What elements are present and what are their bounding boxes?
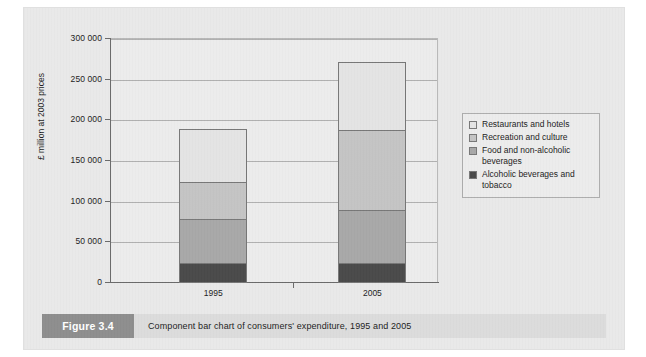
y-axis-title: £ million at 2003 prices bbox=[36, 73, 46, 160]
y-tick-mark bbox=[105, 119, 110, 120]
bar-segment bbox=[179, 219, 247, 264]
bar-1995 bbox=[179, 125, 247, 282]
legend-item: Alcoholic beverages and tobacco bbox=[469, 169, 593, 191]
legend-swatch-icon bbox=[469, 134, 477, 142]
y-tick-group: 50 000 bbox=[110, 241, 111, 242]
x-tick-label: 1995 bbox=[204, 288, 223, 298]
y-tick-mark bbox=[105, 38, 110, 39]
bar-2005 bbox=[338, 58, 406, 282]
legend-label: Restaurants and hotels bbox=[482, 119, 569, 130]
chart-legend: Restaurants and hotelsRecreation and cul… bbox=[462, 113, 600, 198]
y-tick-group: 150 000 bbox=[110, 160, 111, 161]
figure-number: Figure 3.4 bbox=[42, 314, 134, 338]
legend-swatch-icon bbox=[469, 147, 477, 155]
y-tick-mark bbox=[105, 201, 110, 202]
bar-segment bbox=[179, 129, 247, 183]
y-tick-group: 250 000 bbox=[110, 79, 111, 80]
x-tick-label: 2005 bbox=[363, 288, 382, 298]
y-tick-label: 250 000 bbox=[71, 74, 102, 84]
bar-segment bbox=[338, 130, 406, 211]
figure-caption-text: Component bar chart of consumers' expend… bbox=[148, 321, 411, 331]
legend-label: Food and non-alcoholic beverages bbox=[482, 145, 593, 167]
legend-label: Alcoholic beverages and tobacco bbox=[482, 169, 593, 191]
figure-caption: Figure 3.4 Component bar chart of consum… bbox=[42, 314, 606, 338]
y-tick-mark bbox=[105, 282, 110, 283]
y-tick-mark bbox=[105, 79, 110, 80]
y-tick-label: 200 000 bbox=[71, 114, 102, 124]
y-tick-group: 100 000 bbox=[110, 201, 111, 202]
bar-segment bbox=[338, 210, 406, 264]
y-tick-mark bbox=[105, 241, 110, 242]
figure-caption-bar: Component bar chart of consumers' expend… bbox=[134, 314, 606, 338]
legend-item: Recreation and culture bbox=[469, 132, 593, 143]
chart-figure: £ million at 2003 prices 050 000100 0001… bbox=[42, 18, 606, 300]
bar-segment bbox=[179, 182, 247, 220]
y-tick-label: 100 000 bbox=[71, 196, 102, 206]
y-tick-label: 150 000 bbox=[71, 155, 102, 165]
legend-item: Restaurants and hotels bbox=[469, 119, 593, 130]
y-tick-label: 50 000 bbox=[75, 236, 102, 246]
scanned-page: £ million at 2003 prices 050 000100 0001… bbox=[24, 8, 624, 349]
bar-segment bbox=[338, 62, 406, 131]
y-tick-group: 300 000 bbox=[110, 38, 111, 39]
bar-segment bbox=[179, 263, 247, 283]
y-tick-label: 300 000 bbox=[71, 33, 102, 43]
legend-swatch-icon bbox=[469, 121, 477, 129]
y-tick-mark bbox=[105, 160, 110, 161]
legend-swatch-icon bbox=[469, 171, 477, 179]
y-tick-label: 0 bbox=[97, 277, 102, 287]
y-tick-group: 0 bbox=[110, 282, 111, 283]
x-axis-mid-tick bbox=[293, 283, 294, 288]
legend-item: Food and non-alcoholic beverages bbox=[469, 145, 593, 167]
bar-segment bbox=[338, 263, 406, 283]
y-tick-group: 200 000 bbox=[110, 119, 111, 120]
legend-label: Recreation and culture bbox=[482, 132, 568, 143]
gridline bbox=[110, 39, 437, 40]
